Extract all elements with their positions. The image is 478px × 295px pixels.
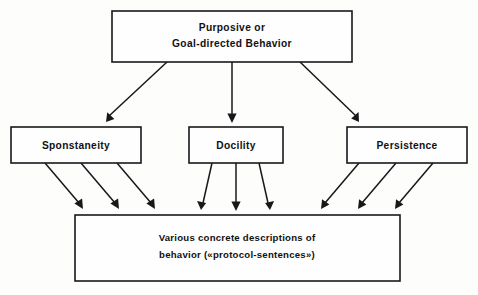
- edge-sponstaneity-to-bottom-1: [45, 163, 83, 209]
- edge-docility-to-bottom-1: [197, 163, 212, 210]
- node-sponstaneity: Sponstaneity: [11, 127, 141, 163]
- node-concrete-descriptions-line2: behavior («protocol-sentences»): [159, 249, 315, 260]
- node-purposive-behavior-line1: Purposive or: [199, 22, 265, 33]
- edge-root-to-docility: [227, 62, 236, 123]
- node-concrete-descriptions: Various concrete descriptions of behavio…: [75, 215, 400, 281]
- node-persistence-label: Persistence: [376, 140, 437, 151]
- edge-docility-to-bottom-2: [231, 163, 240, 211]
- edge-sponstaneity-to-bottom-3: [117, 163, 155, 209]
- node-concrete-descriptions-line1: Various concrete descriptions of: [159, 232, 316, 243]
- node-docility: Docility: [189, 127, 283, 163]
- node-sponstaneity-label: Sponstaneity: [42, 140, 110, 151]
- node-purposive-behavior: Purposive or Goal-directed Behavior: [112, 11, 352, 62]
- edge-root-to-persistence: [300, 62, 359, 122]
- node-persistence: Persistence: [347, 127, 467, 163]
- edge-persistence-to-bottom-2: [358, 163, 396, 209]
- flowchart-diagram: Purposive or Goal-directed Behavior Spon…: [0, 0, 478, 295]
- edge-root-to-sponstaneity: [106, 62, 167, 122]
- node-purposive-behavior-line2: Goal-directed Behavior: [172, 38, 292, 49]
- diagram-canvas: Purposive or Goal-directed Behavior Spon…: [0, 0, 478, 295]
- edge-persistence-to-bottom-1: [321, 163, 359, 209]
- edge-sponstaneity-to-bottom-2: [81, 163, 119, 209]
- node-docility-label: Docility: [216, 140, 256, 151]
- edge-persistence-to-bottom-3: [395, 163, 433, 209]
- edge-docility-to-bottom-3: [259, 163, 274, 210]
